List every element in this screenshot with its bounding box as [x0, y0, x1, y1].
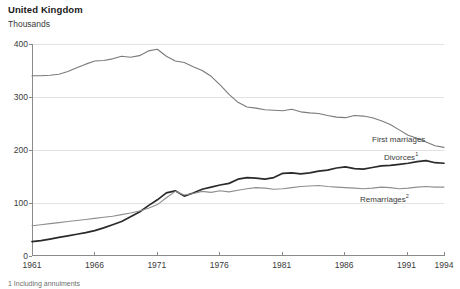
chart-footnote: 1 Including annulments	[8, 280, 80, 287]
series-label-divorces: Divorces1	[384, 151, 418, 162]
series-line	[32, 49, 444, 147]
y-tick-label: 100	[14, 198, 28, 208]
y-tick-label: 200	[14, 145, 28, 155]
x-tick-label: 1966	[85, 260, 104, 270]
x-tick-mark	[444, 252, 445, 256]
plot-area: 0100200300400 19611966197119761981198619…	[32, 44, 444, 256]
page-title: United Kingdom	[8, 4, 83, 15]
series-line	[32, 186, 444, 226]
x-tick-label: 1994	[435, 260, 454, 270]
y-tick-label: 400	[14, 39, 28, 49]
x-tick-label: 1981	[272, 260, 291, 270]
x-tick-label: 1971	[147, 260, 166, 270]
y-tick-mark	[29, 256, 32, 257]
x-tick-label: 1961	[23, 260, 42, 270]
series-lines	[32, 44, 444, 256]
chart-figure: United Kingdom Thousands 0100200300400 1…	[0, 0, 460, 289]
series-label-first-marriages: First marriages	[372, 135, 425, 144]
chart-subtitle: Thousands	[8, 19, 50, 29]
x-tick-label: 1991	[397, 260, 416, 270]
x-tick-label: 1976	[210, 260, 229, 270]
y-tick-label: 300	[14, 92, 28, 102]
x-tick-label: 1986	[335, 260, 354, 270]
series-label-remarriages: Remarriages2	[360, 193, 409, 204]
